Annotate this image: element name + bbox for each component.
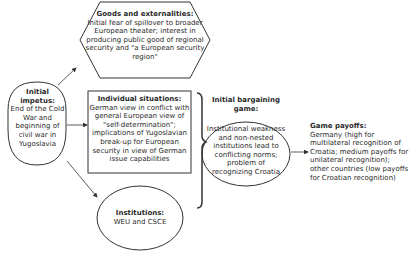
impetus-title: Initial impetus: bbox=[10, 88, 65, 105]
institutions-node: Institutions: WEU and CSCE bbox=[100, 209, 180, 226]
payoffs-body: Germany (high for multilateral recogniti… bbox=[310, 131, 410, 183]
individual-title: Individual situations: bbox=[89, 95, 190, 104]
initial-impetus-node: Initial impetus: End of the Cold War and… bbox=[10, 88, 65, 148]
bracket bbox=[197, 93, 206, 208]
impetus-body: End of the Cold War and beginning of civ… bbox=[10, 105, 65, 148]
institutions-title: Institutions: bbox=[100, 209, 180, 218]
goods-body: Initial fear of spillover to broader Eur… bbox=[82, 19, 208, 62]
bargaining-title: Initial bargaining game: bbox=[210, 96, 282, 113]
goods-externalities-node: Goods and externalities: Initial fear of… bbox=[82, 10, 208, 62]
bargaining-body: Institutional weakness and non-nested in… bbox=[206, 125, 286, 177]
bargaining-title-label: Initial bargaining game: bbox=[210, 96, 282, 113]
game-payoffs-node: Game payoffs: Germany (high for multilat… bbox=[310, 122, 410, 182]
individual-situations-node: Individual situations: German view in co… bbox=[89, 95, 190, 164]
institutions-body: WEU and CSCE bbox=[100, 218, 180, 227]
payoffs-title: Game payoffs: bbox=[310, 122, 410, 131]
individual-body: German view in conflict with general Eur… bbox=[89, 104, 190, 164]
bargaining-node: Institutional weakness and non-nested in… bbox=[206, 125, 286, 177]
goods-title: Goods and externalities: bbox=[82, 10, 208, 19]
